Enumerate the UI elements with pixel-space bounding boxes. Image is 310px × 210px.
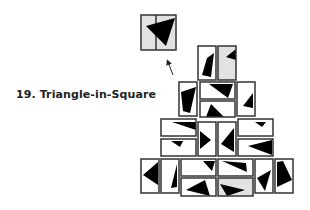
target-square	[141, 15, 176, 50]
arrow-icon	[168, 62, 173, 75]
tile	[200, 101, 235, 117]
tile-background	[238, 119, 273, 136]
tile	[198, 122, 216, 156]
tile	[275, 159, 293, 193]
tile	[198, 46, 216, 80]
tile	[237, 82, 255, 116]
tile	[161, 139, 196, 156]
tile	[181, 178, 216, 196]
tile	[218, 122, 236, 156]
tile	[161, 119, 196, 136]
tile	[179, 82, 197, 116]
tile	[218, 46, 236, 80]
tile	[200, 82, 235, 99]
tile	[181, 159, 216, 176]
tile	[218, 178, 253, 196]
tile	[255, 159, 273, 193]
tile-pyramid	[141, 46, 293, 196]
tile	[141, 159, 159, 193]
tile-background	[218, 46, 236, 80]
triangle-in-square-diagram	[0, 0, 310, 210]
tile-background	[218, 159, 253, 176]
tile	[218, 159, 253, 176]
tile	[238, 139, 273, 156]
tile	[161, 159, 179, 193]
tile	[238, 119, 273, 136]
